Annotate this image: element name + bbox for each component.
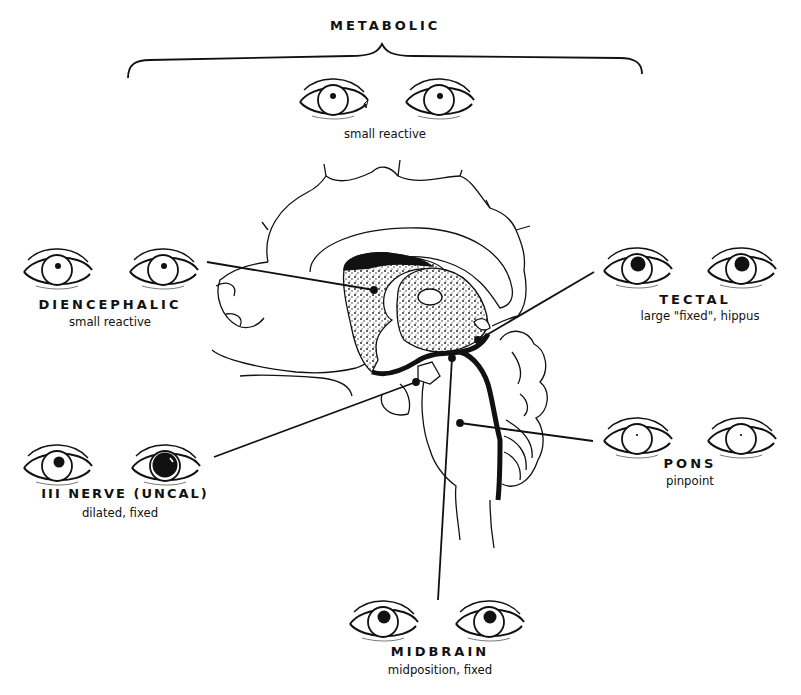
pons-title: PONS (640, 456, 740, 471)
diencephalic-description: small reactive (20, 314, 200, 329)
diagram-drawing (0, 0, 801, 695)
tectal-description: large "fixed", hippus (610, 308, 790, 323)
diencephalic-eyes (24, 249, 198, 289)
tectal-eyes (604, 248, 776, 288)
third-nerve-description: dilated, fixed (20, 505, 220, 520)
midbrain-title: MIDBRAIN (370, 644, 510, 659)
metabolic-brace (128, 44, 642, 78)
tectal-title: TECTAL (620, 292, 770, 307)
brain-sagittal-section (212, 160, 547, 548)
metabolic-description: small reactive (330, 126, 440, 141)
metabolic-eyes (300, 79, 474, 119)
third-nerve-eyes (24, 445, 200, 485)
diencephalic-title: DIENCEPHALIC (20, 297, 200, 312)
third-nerve-title: III NERVE (UNCAL) (20, 486, 230, 501)
midbrain-eyes (350, 601, 524, 641)
pons-eyes (604, 418, 776, 458)
metabolic-title: METABOLIC (330, 18, 440, 33)
midbrain-description: midposition, fixed (360, 662, 520, 677)
pupil-lesion-diagram: METABOLIC small reactive DIENCEPHALIC sm… (0, 0, 801, 695)
pons-description: pinpoint (640, 473, 740, 488)
